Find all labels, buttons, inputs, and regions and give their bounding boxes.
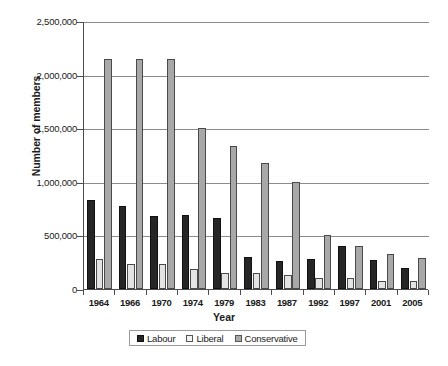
bar-liberal-1992 <box>315 278 323 289</box>
y-axis-tick-label: 2,000,000 <box>0 70 77 81</box>
bar-group <box>370 21 394 289</box>
bar-group <box>338 21 362 289</box>
bar-labour-1997 <box>338 246 346 289</box>
bar-liberal-1970 <box>159 264 167 289</box>
bar-labour-1983 <box>244 257 252 289</box>
bar-group <box>276 21 300 289</box>
bar-group <box>150 21 174 289</box>
bar-labour-1964 <box>87 200 95 289</box>
bar-labour-1979 <box>213 218 221 289</box>
bar-labour-2001 <box>370 260 378 289</box>
bar-liberal-1983 <box>253 273 261 289</box>
x-axis-tick-mark <box>146 290 147 295</box>
bar-conservative-1974 <box>198 128 206 289</box>
bar-group <box>401 21 425 289</box>
bar-group <box>182 21 206 289</box>
y-axis-tick-label: 2,500,000 <box>0 16 77 27</box>
bar-group <box>244 21 268 289</box>
plot-area <box>83 22 428 290</box>
legend-item-liberal: Liberal <box>186 333 223 344</box>
chart-legend: LabourLiberalConservative <box>129 330 306 346</box>
x-axis-tick-mark <box>365 290 366 295</box>
bar-liberal-1987 <box>284 275 292 289</box>
bar-liberal-2001 <box>378 281 386 289</box>
bar-liberal-2005 <box>410 281 418 289</box>
x-axis-tick-mark <box>177 290 178 295</box>
bar-labour-1987 <box>276 261 284 289</box>
bar-liberal-1997 <box>347 278 355 289</box>
figure-british-party-membership-chart: Number of members 0500,0001,000,0001,500… <box>0 0 448 366</box>
legend-swatch-labour-icon <box>137 335 144 342</box>
legend-label: Conservative <box>245 333 298 344</box>
x-axis-tick-mark <box>83 290 84 295</box>
bar-conservative-1997 <box>355 246 363 289</box>
bar-labour-1970 <box>150 216 158 289</box>
legend-item-labour: Labour <box>137 333 175 344</box>
x-axis-tick-mark <box>334 290 335 295</box>
legend-item-conservative: Conservative <box>235 333 298 344</box>
legend-swatch-liberal-icon <box>186 335 193 342</box>
y-axis-tick-label: 1,000,000 <box>0 177 77 188</box>
bar-labour-1992 <box>307 259 315 289</box>
bar-conservative-1979 <box>230 146 238 289</box>
bar-conservative-1964 <box>104 59 112 289</box>
bar-group <box>213 21 237 289</box>
x-axis-tick-mark <box>397 290 398 295</box>
y-axis-tick-label: 1,500,000 <box>0 123 77 134</box>
bar-liberal-1966 <box>127 264 135 289</box>
legend-swatch-conservative-icon <box>235 335 242 342</box>
x-axis-tick-mark <box>114 290 115 295</box>
bar-conservative-1966 <box>136 59 144 289</box>
bar-liberal-1964 <box>96 259 104 289</box>
bar-conservative-2001 <box>387 254 395 289</box>
x-axis-tick-mark <box>208 290 209 295</box>
bar-labour-2005 <box>401 268 409 289</box>
x-axis-tick-mark <box>240 290 241 295</box>
bar-liberal-1974 <box>190 269 198 289</box>
bar-group <box>87 21 111 289</box>
y-axis-tick-label: 0 <box>0 284 77 295</box>
x-axis-tick-mark <box>303 290 304 295</box>
bar-group <box>119 21 143 289</box>
bar-labour-1974 <box>182 215 190 289</box>
x-axis-tick-label-2005: 2005 <box>390 297 434 308</box>
bar-group <box>307 21 331 289</box>
x-axis-title: Year <box>0 311 448 323</box>
legend-label: Labour <box>147 333 175 344</box>
x-axis-tick-mark <box>271 290 272 295</box>
bar-conservative-1987 <box>292 182 300 289</box>
bar-conservative-2005 <box>418 258 426 289</box>
y-axis-tick-label: 500,000 <box>0 230 77 241</box>
legend-label: Liberal <box>196 333 223 344</box>
x-axis-tick-mark <box>428 290 429 295</box>
bar-labour-1966 <box>119 206 127 289</box>
bar-conservative-1992 <box>324 235 332 289</box>
bar-liberal-1979 <box>221 273 229 289</box>
bar-conservative-1970 <box>167 59 175 289</box>
bar-conservative-1983 <box>261 163 269 289</box>
